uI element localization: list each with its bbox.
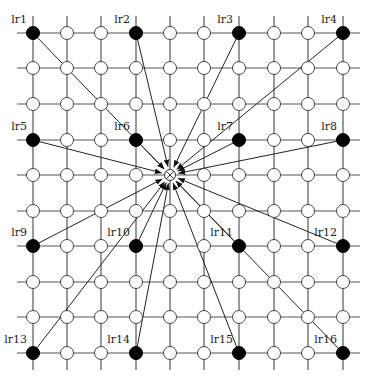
- open-node: [130, 62, 143, 75]
- open-node: [95, 27, 108, 40]
- open-node: [198, 240, 211, 253]
- open-node: [61, 169, 74, 182]
- arrows: [33, 33, 343, 353]
- node-label: lr4: [321, 13, 337, 26]
- open-node: [198, 169, 211, 182]
- open-node: [302, 205, 315, 218]
- filled-node: [130, 134, 143, 147]
- open-node: [198, 134, 211, 147]
- filled-node: [233, 134, 246, 147]
- open-node: [337, 311, 350, 324]
- filled-node: [337, 134, 350, 147]
- open-node: [233, 205, 246, 218]
- open-node: [95, 134, 108, 147]
- open-node: [337, 98, 350, 111]
- open-node: [164, 240, 177, 253]
- open-node: [27, 311, 40, 324]
- open-node: [268, 276, 281, 289]
- open-node: [61, 311, 74, 324]
- node-label: lr3: [217, 13, 233, 26]
- open-node: [198, 347, 211, 360]
- node-label: lr13: [4, 333, 27, 346]
- filled-node: [27, 240, 40, 253]
- open-node: [164, 27, 177, 40]
- open-node: [61, 98, 74, 111]
- open-node: [268, 169, 281, 182]
- open-node: [130, 169, 143, 182]
- filled-node: [337, 347, 350, 360]
- open-node: [302, 62, 315, 75]
- open-node: [268, 134, 281, 147]
- node-label: lr6: [114, 120, 130, 133]
- open-node: [302, 98, 315, 111]
- open-node: [130, 98, 143, 111]
- open-node: [27, 205, 40, 218]
- open-node: [233, 98, 246, 111]
- open-node: [268, 62, 281, 75]
- filled-node: [233, 347, 246, 360]
- node-label: lr15: [210, 333, 233, 346]
- open-node: [61, 27, 74, 40]
- open-node: [233, 169, 246, 182]
- open-node: [268, 27, 281, 40]
- open-node: [61, 347, 74, 360]
- open-node: [233, 311, 246, 324]
- filled-node: [233, 240, 246, 253]
- node-label: lr14: [107, 333, 130, 346]
- filled-node: [337, 240, 350, 253]
- open-node: [337, 276, 350, 289]
- open-node: [302, 276, 315, 289]
- node-label: lr2: [114, 13, 130, 26]
- open-node: [95, 311, 108, 324]
- lattice-diagram: lr1lr2lr3lr4lr5lr6lr7lr8lr9lr10lr11lr12l…: [0, 0, 379, 385]
- open-node: [130, 205, 143, 218]
- open-node: [233, 62, 246, 75]
- open-node: [302, 169, 315, 182]
- node-label: lr8: [321, 120, 337, 133]
- open-node: [61, 62, 74, 75]
- center-node: [165, 170, 176, 181]
- open-node: [61, 134, 74, 147]
- open-node: [198, 98, 211, 111]
- filled-node: [27, 347, 40, 360]
- filled-node: [27, 134, 40, 147]
- open-node: [95, 276, 108, 289]
- open-node: [337, 205, 350, 218]
- open-node: [164, 134, 177, 147]
- open-node: [233, 276, 246, 289]
- open-node: [164, 98, 177, 111]
- filled-node: [130, 27, 143, 40]
- open-node: [337, 62, 350, 75]
- filled-node: [337, 27, 350, 40]
- node-label: lr11: [210, 226, 233, 239]
- open-node: [61, 240, 74, 253]
- open-node: [27, 98, 40, 111]
- node-label: lr1: [11, 13, 27, 26]
- open-node: [95, 62, 108, 75]
- open-node: [302, 240, 315, 253]
- open-node: [302, 27, 315, 40]
- open-node: [198, 62, 211, 75]
- open-node: [268, 311, 281, 324]
- open-node: [198, 205, 211, 218]
- open-node: [164, 62, 177, 75]
- open-node: [302, 347, 315, 360]
- open-node: [95, 205, 108, 218]
- open-node: [302, 311, 315, 324]
- open-node: [61, 205, 74, 218]
- open-node: [95, 240, 108, 253]
- node-label: lr12: [314, 226, 337, 239]
- open-node: [268, 205, 281, 218]
- open-node: [130, 276, 143, 289]
- filled-node: [130, 347, 143, 360]
- open-node: [27, 169, 40, 182]
- filled-node: [130, 240, 143, 253]
- node-label: lr5: [11, 120, 27, 133]
- node-label: lr9: [11, 226, 27, 239]
- open-node: [198, 27, 211, 40]
- open-node: [268, 98, 281, 111]
- open-node: [164, 276, 177, 289]
- node-label: lr10: [107, 226, 130, 239]
- open-node: [198, 276, 211, 289]
- open-node: [61, 276, 74, 289]
